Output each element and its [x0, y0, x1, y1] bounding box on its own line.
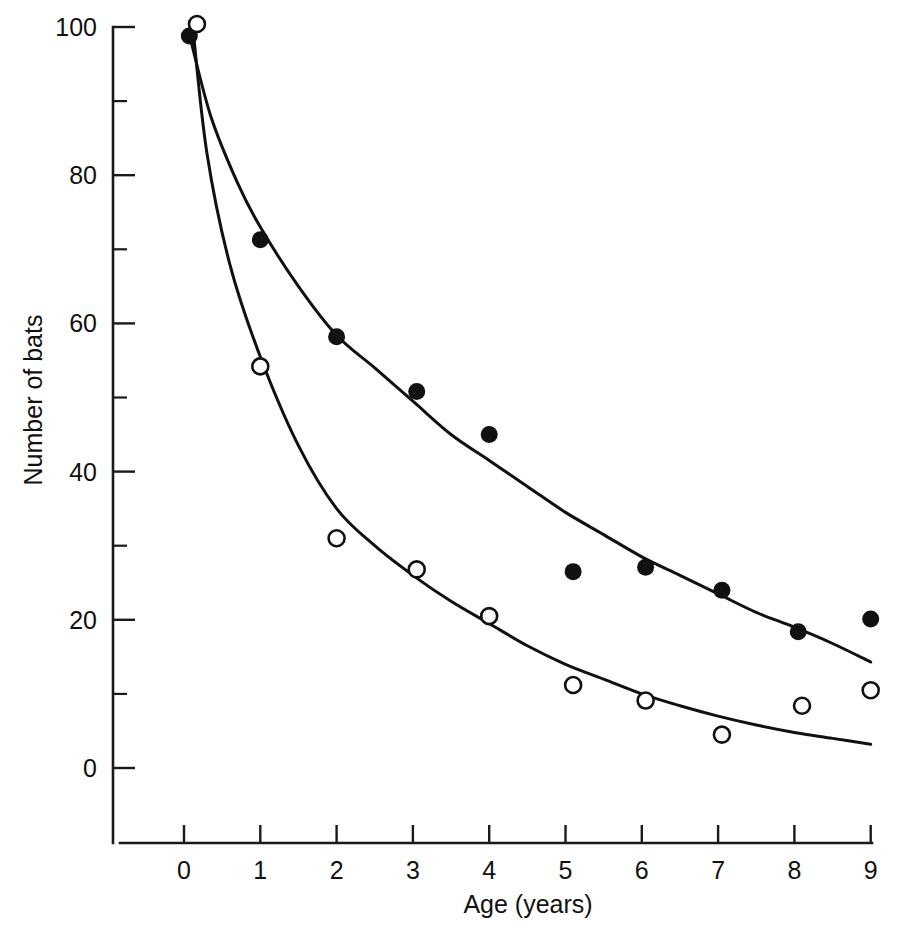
data-point-open-2 — [329, 530, 345, 546]
data-points — [181, 16, 879, 743]
x-axis-title: Age (years) — [463, 890, 592, 918]
x-tick-label-4: 4 — [482, 856, 496, 884]
x-tick-label-8: 8 — [787, 856, 801, 884]
upper-fit-curve — [189, 34, 870, 662]
data-point-open-4 — [481, 608, 497, 624]
data-point-open-9 — [863, 682, 879, 698]
data-point-filled-4 — [481, 426, 498, 443]
data-point-filled-8 — [790, 623, 807, 640]
data-point-open-0 — [189, 16, 205, 32]
y-tick-label-60: 60 — [69, 309, 97, 337]
x-tick-label-9: 9 — [864, 856, 878, 884]
data-point-open-5 — [565, 677, 581, 693]
x-tick-label-1: 1 — [253, 856, 267, 884]
data-point-filled-5 — [565, 563, 582, 580]
data-point-filled-6 — [637, 559, 654, 576]
data-point-open-8 — [794, 698, 810, 714]
data-point-open-7 — [714, 727, 730, 743]
axis-labels: 0204060801000123456789Age (years)Number … — [19, 13, 878, 918]
y-tick-label-40: 40 — [69, 458, 97, 486]
data-point-filled-1 — [252, 231, 269, 248]
data-point-open-6 — [638, 693, 654, 709]
x-tick-label-2: 2 — [330, 856, 344, 884]
x-tick-label-7: 7 — [711, 856, 725, 884]
x-tick-label-5: 5 — [559, 856, 573, 884]
data-point-filled-7 — [713, 582, 730, 599]
y-tick-label-20: 20 — [69, 606, 97, 634]
data-point-open-3 — [409, 561, 425, 577]
data-point-filled-2 — [328, 328, 345, 345]
fit-curves — [189, 31, 870, 745]
survivorship-chart-figure: 0204060801000123456789Age (years)Number … — [0, 0, 899, 944]
y-tick-label-100: 100 — [55, 13, 97, 41]
x-tick-label-6: 6 — [635, 856, 649, 884]
data-point-filled-9 — [862, 611, 879, 628]
data-point-open-1 — [252, 358, 268, 374]
y-axis-title: Number of bats — [19, 315, 47, 486]
lower-fit-curve — [193, 31, 871, 745]
y-tick-label-0: 0 — [83, 754, 97, 782]
x-tick-label-3: 3 — [406, 856, 420, 884]
chart-plot-area: 0204060801000123456789Age (years)Number … — [0, 0, 899, 944]
data-point-filled-3 — [408, 383, 425, 400]
y-tick-label-80: 80 — [69, 161, 97, 189]
x-tick-label-0: 0 — [177, 856, 191, 884]
